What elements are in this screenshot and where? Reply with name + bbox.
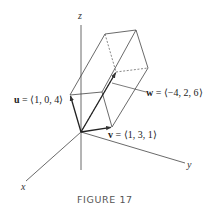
vector-w-arrow [81, 73, 116, 132]
z-axis-label: z [77, 10, 82, 21]
vector-u-arrow [71, 96, 82, 132]
vector-w-label: w = ⟨−4, 2, 6⟩ [146, 87, 203, 98]
y-axis-label: y [186, 159, 192, 170]
figure-caption: FIGURE 17 [77, 194, 133, 205]
vector-v-arrow [81, 127, 111, 132]
w-label-leader [112, 83, 146, 92]
x-axis-label: x [20, 181, 26, 192]
vector-u-label: u = ⟨1, 0, 4⟩ [14, 94, 63, 105]
vector-v-label: v = ⟨1, 3, 1⟩ [108, 129, 157, 140]
visible-edges [70, 30, 148, 127]
parallelepiped-diagram: z x y u = ⟨1, 0, 4⟩ w = ⟨−4, 2, 6⟩ v = ⟨… [0, 0, 213, 210]
x-axis [26, 132, 81, 181]
hidden-edges [81, 34, 148, 132]
